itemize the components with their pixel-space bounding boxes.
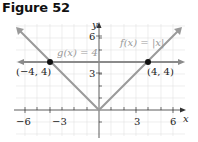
x-tick-label: 3 [134, 116, 140, 127]
point-label: (−4, 4) [16, 66, 51, 77]
series-label-f: f(x) = |x| [119, 37, 164, 49]
intersection-point [145, 59, 151, 65]
x-tick-label: −6 [16, 116, 31, 127]
intersection-point [47, 59, 53, 65]
y-tick-label: 6 [89, 31, 95, 42]
y-tick-label: 3 [89, 68, 95, 79]
x-tick-label: 6 [170, 116, 176, 127]
x-tick-label: −3 [52, 116, 67, 127]
y-axis-label: y [91, 19, 98, 30]
point-label: (4, 4) [147, 66, 174, 77]
chart: −6 −3 3 6 3 6 x y f(x) = |x| g(x) = 4 (−… [0, 0, 198, 142]
x-axis-label: x [183, 113, 189, 124]
series-label-g: g(x) = 4 [57, 47, 98, 58]
